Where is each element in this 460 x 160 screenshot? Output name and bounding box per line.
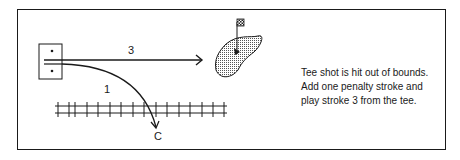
stroke-1-label: 1 xyxy=(104,83,110,95)
rule-caption: Tee shot is hit out of bounds. Add one p… xyxy=(301,66,428,108)
stroke-3-path xyxy=(44,55,202,65)
caption-line: Add one penalty stroke and xyxy=(301,80,428,94)
stroke-1-path xyxy=(44,64,159,128)
tee-marker-icon xyxy=(51,70,54,73)
ball-position-marker: C xyxy=(154,130,162,142)
caption-line: play stroke 3 from the tee. xyxy=(301,94,428,108)
stroke-3-label: 3 xyxy=(128,44,134,56)
putting-green xyxy=(215,36,261,77)
out-of-bounds-fence xyxy=(55,102,227,117)
tee-marker-icon xyxy=(51,50,54,53)
tee-box xyxy=(39,44,62,79)
caption-line: Tee shot is hit out of bounds. xyxy=(301,66,428,80)
